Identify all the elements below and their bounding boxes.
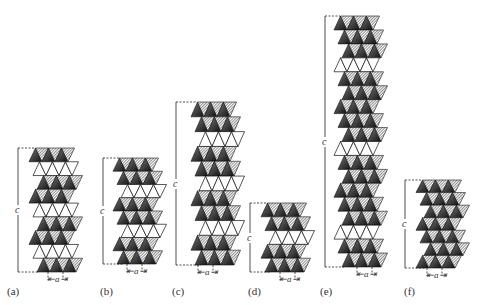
a-axis-label-b: ⇤a⇥ (126, 266, 147, 276)
panel-d (250, 203, 315, 280)
panel-label-c: (c) (172, 285, 184, 297)
panel-label-d: (d) (248, 285, 261, 297)
panel-label-b: (b) (100, 285, 113, 297)
c-axis-label-e: c (322, 137, 326, 147)
c-axis-label-b: c (100, 206, 104, 216)
panel-c (176, 102, 245, 273)
diagram-canvas (0, 0, 478, 305)
c-axis-label-c: c (173, 179, 177, 189)
a-axis-label-c: ⇤a⇥ (197, 267, 218, 277)
a-axis-label-e: ⇤a⇥ (356, 269, 377, 279)
panel-e (325, 16, 388, 275)
panel-a (18, 148, 83, 280)
panel-label-e: (e) (320, 285, 332, 297)
a-axis-label-a: ⇤a⇥ (47, 274, 68, 284)
a-axis-label-f: ⇤a⇥ (426, 270, 447, 280)
panel-f (405, 180, 470, 276)
panel-b (103, 158, 167, 272)
panel-label-f: (f) (404, 285, 415, 297)
c-axis-label-a: c (15, 205, 19, 215)
panel-label-a: (a) (7, 285, 19, 297)
c-axis-label-f: c (402, 219, 406, 229)
c-axis-label-d: c (247, 233, 251, 243)
a-axis-label-d: ⇤a⇥ (279, 274, 300, 284)
